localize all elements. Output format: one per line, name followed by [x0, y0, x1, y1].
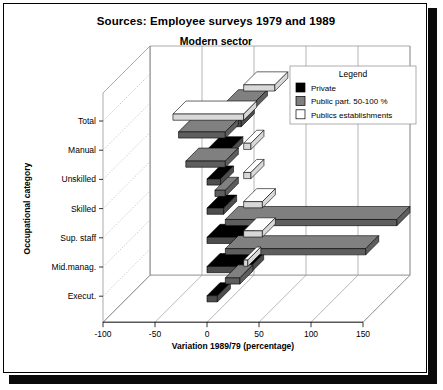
x-tick-label: 100	[304, 329, 318, 339]
y-tick-label: Skilled	[71, 204, 96, 214]
bar-chart-3d: -100-50050100150Variation 1989/79 (perce…	[4, 4, 428, 374]
y-tick-label: Sup. staff	[60, 233, 96, 243]
legend-swatch	[296, 110, 305, 119]
y-axis-label: Occupational category	[22, 163, 32, 255]
window-shadow-right	[428, 8, 437, 379]
legend-label: Private	[311, 84, 336, 93]
y-tick-label: Unskilled	[62, 174, 97, 184]
y-tick-label: Execut.	[68, 291, 96, 301]
x-axis-label: Variation 1989/79 (percentage)	[172, 341, 295, 351]
chart-frame: Sources: Employee surveys 1979 and 1989 …	[3, 3, 427, 373]
x-tick-label: 50	[254, 329, 264, 339]
y-tick-label: Mid.manag.	[52, 262, 96, 272]
bar	[225, 236, 378, 255]
window-shadow-bottom	[9, 375, 437, 384]
y-tick-label: Total	[78, 116, 96, 126]
legend-label: Publics establishments	[311, 111, 392, 120]
legend-box: LegendPrivatePublic part. 50-100 %Public…	[290, 66, 416, 124]
legend-title: Legend	[339, 69, 368, 79]
legend-label: Public part. 50-100 %	[311, 97, 388, 106]
y-tick-label: Manual	[68, 145, 96, 155]
x-tick-label: -50	[149, 329, 162, 339]
legend-swatch	[296, 83, 305, 92]
x-tick-label: 150	[356, 329, 370, 339]
x-tick-label: 0	[205, 329, 210, 339]
legend-swatch	[296, 96, 305, 105]
x-tick-label: -100	[94, 329, 111, 339]
bar	[173, 101, 257, 120]
